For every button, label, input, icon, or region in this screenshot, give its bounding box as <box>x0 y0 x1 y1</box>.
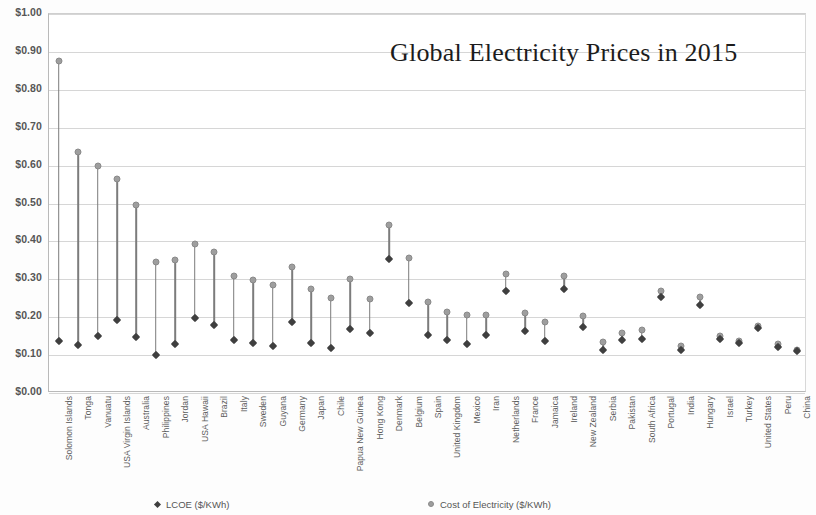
data-point-cost-of-electricity <box>561 272 568 279</box>
data-point-cost-of-electricity <box>522 309 529 316</box>
x-axis-tick-label-text: China <box>802 396 812 419</box>
data-point-cost-of-electricity <box>114 175 121 182</box>
x-axis-tick-label-text: United Kingdom <box>452 396 462 458</box>
x-axis-tick-label-text: Italy <box>239 396 249 412</box>
x-axis-tick-label: Hungary <box>702 396 712 429</box>
data-point-lcoe <box>152 351 160 359</box>
data-point-lcoe <box>268 342 276 350</box>
plot-area <box>48 13 806 392</box>
x-axis-tick-label: Turkey <box>741 396 751 422</box>
x-axis-tick-label: USA Hawaii <box>197 396 207 442</box>
data-point-cost-of-electricity <box>288 263 295 270</box>
data-point-lcoe <box>93 332 101 340</box>
data-point-lcoe <box>307 338 315 346</box>
data-point-lcoe <box>249 338 257 346</box>
connector-line <box>330 298 332 347</box>
chart-legend: LCOE ($/KWh) Cost of Electricity ($/KWh) <box>0 496 816 515</box>
data-point-lcoe <box>424 331 432 339</box>
data-point-cost-of-electricity <box>75 149 82 156</box>
legend-label-cost-of-electricity: Cost of Electricity ($/KWh) <box>440 499 551 510</box>
data-point-cost-of-electricity <box>211 248 218 255</box>
y-axis-tick-label: $0.20 <box>0 309 42 321</box>
data-point-cost-of-electricity <box>230 272 237 279</box>
data-point-lcoe <box>501 286 509 294</box>
data-point-lcoe <box>404 299 412 307</box>
connector-line <box>272 285 274 346</box>
x-axis-tick-label: Germany <box>294 396 304 432</box>
x-axis-tick-label: Iran <box>488 396 498 411</box>
x-axis-tick-label-text: Spain <box>433 396 443 418</box>
data-point-lcoe <box>365 329 373 337</box>
x-axis-tick-label-text: Israel <box>725 396 735 417</box>
data-point-cost-of-electricity <box>269 281 276 288</box>
data-point-lcoe <box>540 337 548 345</box>
x-axis-tick-label-text: Guyana <box>278 396 288 426</box>
x-axis-tick-label: Australia <box>138 396 148 430</box>
x-axis-tick-label-text: Peru <box>783 396 793 414</box>
connector-line <box>213 252 215 325</box>
data-point-cost-of-electricity <box>250 277 257 284</box>
x-axis-tick-label: USA Virgin Islands <box>119 396 129 468</box>
x-axis-tick-label-text: Jordan <box>180 396 190 423</box>
x-axis-tick-label-text: Hong Kong <box>375 396 385 439</box>
x-axis-tick-label: New Zealand <box>585 396 595 447</box>
x-axis-tick-label-text: Japan <box>316 396 326 420</box>
data-point-lcoe <box>171 339 179 347</box>
x-axis-tick-label-text: Vanuatu <box>103 396 113 428</box>
data-point-lcoe <box>657 293 665 301</box>
data-point-cost-of-electricity <box>463 312 470 319</box>
data-point-lcoe <box>579 322 587 330</box>
data-point-cost-of-electricity <box>191 241 198 248</box>
data-series-layer <box>49 14 805 391</box>
connector-line <box>291 267 293 322</box>
legend-label-lcoe: LCOE ($/KWh) <box>166 499 229 510</box>
data-point-cost-of-electricity <box>541 319 548 326</box>
connector-line <box>116 179 118 320</box>
x-axis-tick-label: Guyana <box>275 396 285 426</box>
y-axis-tick-label: $1.00 <box>0 6 42 18</box>
data-point-cost-of-electricity <box>405 255 412 262</box>
x-axis-tick-label: United States <box>760 396 770 448</box>
x-axis-tick-label: Portugal <box>663 396 673 428</box>
y-axis-tick-label: $0.10 <box>0 347 42 359</box>
y-axis-tick-label: $0.50 <box>0 196 42 208</box>
x-axis-tick-label: Philippines <box>158 396 168 438</box>
x-axis-tick-label-text: Australia <box>141 396 151 430</box>
x-axis-tick-label-text: USA Virgin Islands <box>122 396 132 468</box>
connector-line <box>58 61 60 341</box>
x-axis-tick-label: Japan <box>313 396 323 420</box>
connector-line <box>175 260 177 343</box>
circle-marker-icon <box>428 501 434 507</box>
x-axis-tick-label-text: Hungary <box>705 396 715 429</box>
data-point-cost-of-electricity <box>502 270 509 277</box>
x-axis-tick-label: Tonga <box>80 396 90 420</box>
connector-line <box>408 258 410 303</box>
data-point-lcoe <box>210 321 218 329</box>
connector-line <box>97 166 99 337</box>
data-point-cost-of-electricity <box>55 58 62 65</box>
x-axis-tick-label: India <box>683 396 693 415</box>
legend-item-cost-of-electricity: Cost of Electricity ($/KWh) <box>428 498 551 510</box>
y-axis-tick-label: $0.30 <box>0 271 42 283</box>
data-point-lcoe <box>638 335 646 343</box>
data-point-lcoe <box>229 336 237 344</box>
connector-line <box>136 205 138 337</box>
connector-line <box>349 279 351 328</box>
x-axis-tick-label-text: Mexico <box>472 396 482 424</box>
x-axis-tick-label: Solomon Islands <box>61 396 71 460</box>
chart-title: Global Electricity Prices in 2015 <box>390 38 790 68</box>
x-axis-tick-label-text: Solomon Islands <box>64 396 74 460</box>
x-axis-tick-label: China <box>799 396 809 419</box>
data-point-cost-of-electricity <box>366 296 373 303</box>
data-point-lcoe <box>443 336 451 344</box>
x-axis-tick-label: Jamaica <box>547 396 557 428</box>
x-axis-tick-label: Denmark <box>391 396 401 431</box>
x-axis-tick-label: Hong Kong <box>372 396 382 439</box>
data-point-lcoe <box>132 333 140 341</box>
x-axis-tick-label-text: Brazil <box>219 396 229 418</box>
data-point-cost-of-electricity <box>308 285 315 292</box>
data-point-cost-of-electricity <box>483 311 490 318</box>
x-axis-tick-label-text: Netherlands <box>511 396 521 443</box>
connector-line <box>155 262 157 355</box>
x-axis-tick-label-text: Germany <box>297 396 307 432</box>
